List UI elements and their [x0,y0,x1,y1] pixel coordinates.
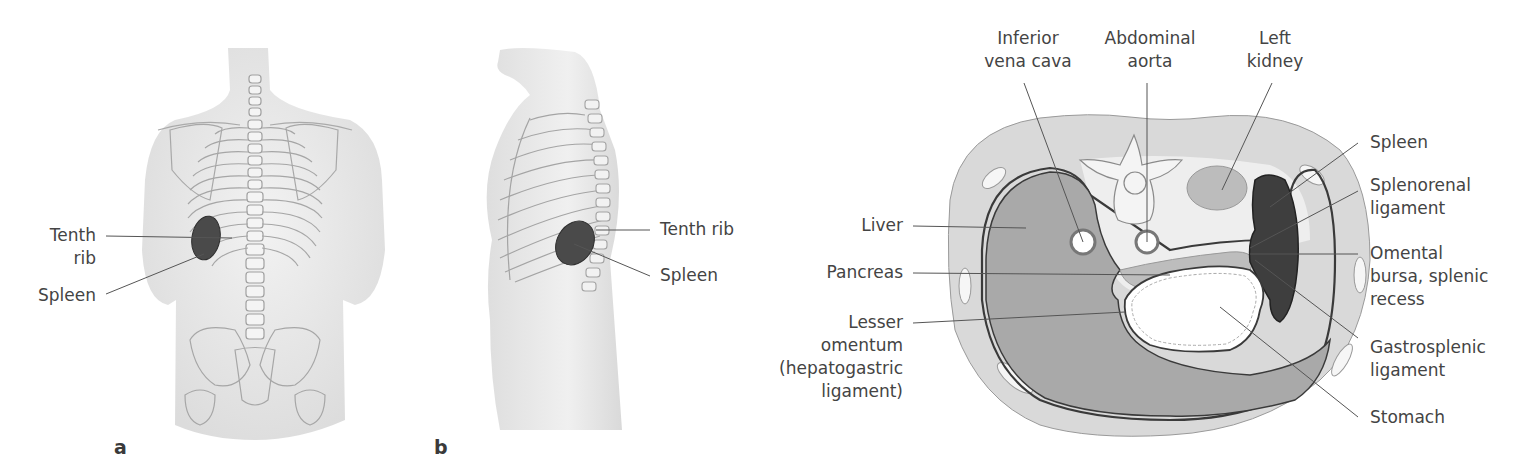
torso-silhouette [142,48,385,440]
label-gastrosplenic-ligament: Gastrosplenic ligament [1370,336,1486,382]
label-spleen-section: Spleen [1370,131,1428,154]
panel-a-posterior-view: Tenth rib Spleen a [0,0,400,465]
label-lesser-omentum: Lesser omentum (hepatogastric ligament) [779,311,903,403]
label-spleen-lateral: Spleen [660,264,718,287]
label-splenorenal-ligament: Splenorenal ligament [1370,174,1471,220]
label-pancreas: Pancreas [827,261,903,284]
label-spleen: Spleen [38,284,96,307]
left-kidney-shape [1187,166,1247,210]
label-tenth-rib: Tenth rib [50,224,96,270]
label-stomach: Stomach [1370,406,1445,429]
label-left-kidney: Left kidney [1220,27,1330,73]
panel-b-lateral-view: Tenth rib Spleen b [400,0,750,465]
label-tenth-rib-lateral: Tenth rib [660,218,734,241]
panel-letter-a: a [114,436,127,458]
label-omental-bursa-splenic-recess: Omental bursa, splenic recess [1370,242,1488,311]
fat-pocket [1354,257,1366,293]
label-abdominal-aorta: Abdominal aorta [1090,27,1210,73]
panel-letter-b: b [434,436,448,458]
panel-c-transverse-section: Inferior vena cava Abdominal aorta Left … [750,0,1523,465]
label-liver: Liver [861,214,903,237]
label-inferior-vena-cava: Inferior vena cava [968,27,1088,73]
